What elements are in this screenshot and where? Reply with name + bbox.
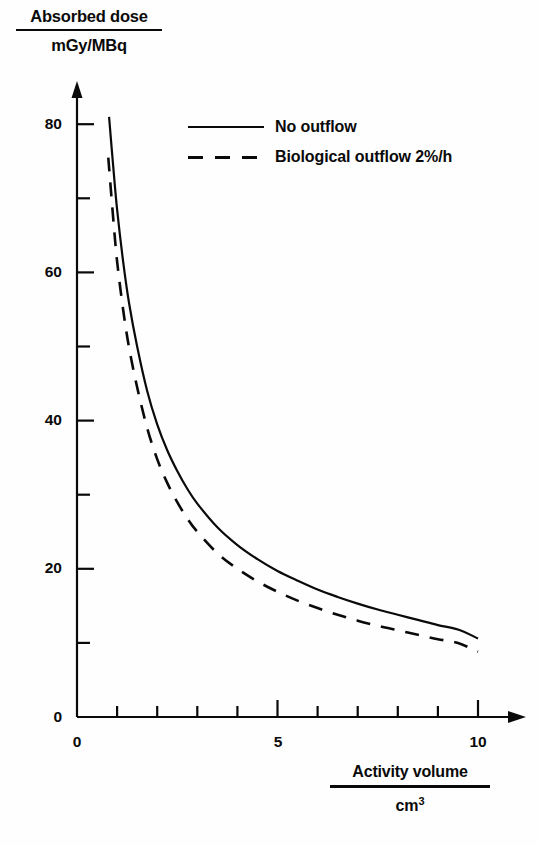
axes: [72, 81, 527, 723]
figure-caption: [0, 831, 540, 845]
axis-ticks: [77, 124, 478, 717]
figure-absorbed-dose-vs-activity-volume: Absorbed dose mGy/MBq 80 60 40 20 0 0 5 …: [0, 0, 540, 845]
x-axis-arrow-icon: [508, 711, 526, 723]
curve-no-outflow: [109, 117, 478, 639]
data-curves: [108, 117, 478, 652]
plot-area: [0, 0, 540, 845]
y-axis-arrow-icon: [72, 81, 83, 98]
